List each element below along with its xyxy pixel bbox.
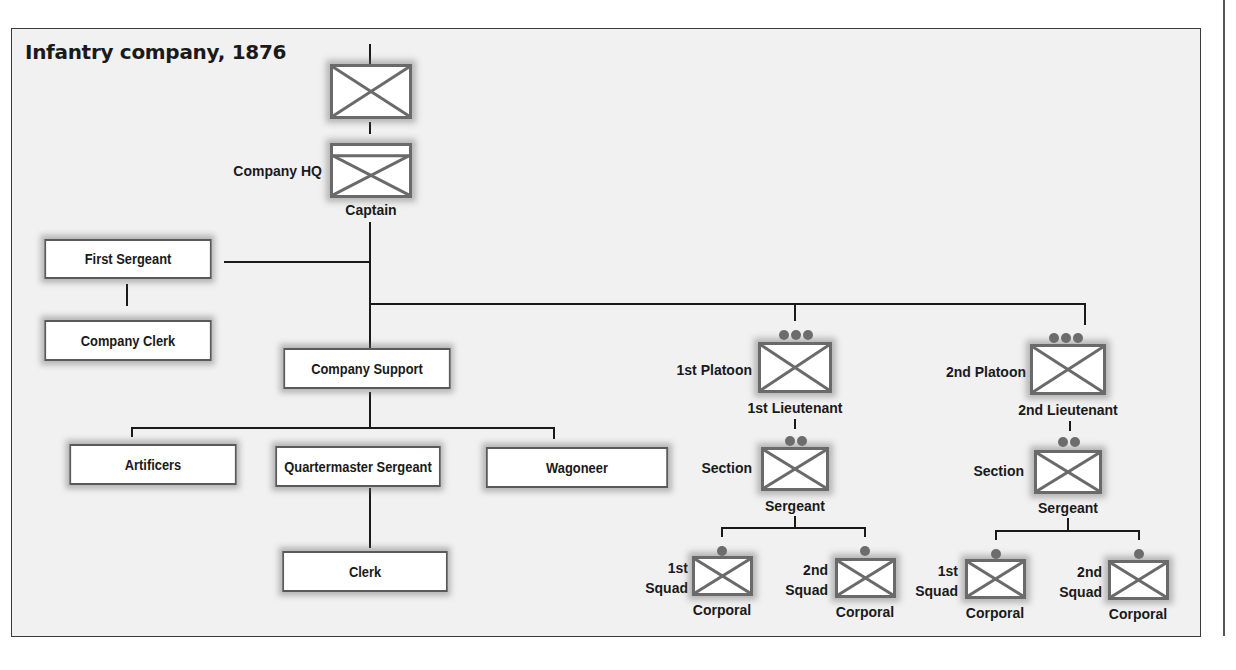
rank-dots-squad: [717, 546, 727, 556]
connector: [369, 44, 371, 64]
infantry-hq-cross-icon: [333, 146, 409, 195]
rank-dots-squad: [991, 549, 1001, 559]
diagram-title: Infantry company, 1876: [25, 40, 286, 64]
company-symbol: [330, 64, 412, 119]
rank-dots-squad: [860, 546, 870, 556]
connector: [131, 427, 555, 429]
p2-squad2-label-line1: 2nd: [1054, 564, 1102, 580]
size-dot-icon: [779, 330, 789, 340]
rank-dots-squad: [1134, 549, 1144, 559]
size-dot-icon: [797, 436, 807, 446]
page-margin-rule: [1223, 0, 1225, 636]
platoon1-rank: 1st Lieutenant: [735, 400, 855, 416]
connector: [553, 427, 555, 439]
connector: [369, 392, 371, 428]
section2-rank: Sergeant: [1028, 500, 1108, 516]
size-dot-icon: [791, 330, 801, 340]
connector: [794, 303, 796, 321]
connector: [369, 488, 371, 548]
p1-squad1-rank: Corporal: [682, 602, 762, 618]
p2-squad2-symbol: [1108, 560, 1169, 600]
infantry-cross-icon: [838, 561, 893, 595]
connector: [1084, 303, 1086, 325]
size-dot-icon: [803, 330, 813, 340]
connector: [126, 284, 128, 306]
p1-squad2-label-line2: Squad: [780, 582, 828, 598]
company-support-box: Company Support: [283, 348, 450, 389]
p2-squad1-label-line1: 1st: [910, 563, 958, 579]
connector: [369, 122, 371, 134]
infantry-cross-icon: [1033, 347, 1103, 392]
section1-label: Section: [690, 460, 752, 476]
first-sergeant-box: First Sergeant: [44, 239, 211, 279]
platoon2-label: 2nd Platoon: [938, 364, 1026, 380]
p2-squad2-rank: Corporal: [1098, 606, 1178, 622]
infantry-cross-icon: [764, 450, 826, 488]
connector: [369, 303, 1086, 305]
infantry-cross-icon: [968, 562, 1023, 596]
p2-squad2-label-line2: Squad: [1054, 584, 1102, 600]
p1-squad2-label-line1: 2nd: [780, 562, 828, 578]
rank-dots-platoon: [779, 330, 813, 340]
company-hq-rank: Captain: [330, 202, 412, 218]
clerk-box: Clerk: [282, 551, 448, 592]
artificers-box: Artificers: [69, 444, 236, 485]
infantry-cross-icon: [333, 67, 409, 116]
rank-dots-platoon: [1049, 333, 1083, 343]
connector: [995, 530, 1140, 532]
wagoneer-box: Wagoneer: [486, 447, 668, 488]
size-dot-icon: [717, 546, 727, 556]
platoon1-symbol: [758, 342, 832, 393]
p2-squad1-rank: Corporal: [955, 605, 1035, 621]
platoon2-symbol: [1030, 344, 1106, 395]
size-dot-icon: [991, 549, 1001, 559]
p1-squad1-symbol: [692, 556, 753, 596]
size-dot-icon: [1073, 333, 1083, 343]
size-dot-icon: [1058, 437, 1068, 447]
connector: [131, 427, 133, 437]
connector: [1069, 421, 1071, 431]
connector: [794, 419, 796, 429]
section2-symbol: [1034, 450, 1102, 494]
section1-symbol: [761, 447, 829, 491]
p2-squad1-symbol: [965, 559, 1026, 599]
connector: [1067, 518, 1069, 530]
p2-squad1-label-line2: Squad: [910, 583, 958, 599]
infantry-cross-icon: [695, 559, 750, 593]
p1-squad1-label-line1: 1st: [640, 560, 688, 576]
size-dot-icon: [1049, 333, 1059, 343]
section2-label: Section: [962, 463, 1024, 479]
p1-squad1-label-line2: Squad: [640, 580, 688, 596]
p1-squad2-rank: Corporal: [825, 604, 905, 620]
connector: [995, 530, 997, 540]
connector: [721, 527, 723, 537]
rank-dots-section: [785, 436, 807, 446]
p1-squad2-symbol: [835, 558, 896, 598]
platoon1-label: 1st Platoon: [668, 362, 752, 378]
infantry-cross-icon: [761, 345, 829, 390]
size-dot-icon: [1070, 437, 1080, 447]
company-hq-symbol: [330, 143, 412, 198]
infantry-cross-icon: [1111, 563, 1166, 597]
quartermaster-sergeant-box: Quartermaster Sergeant: [275, 446, 441, 487]
rank-dots-section: [1058, 437, 1080, 447]
connector: [224, 261, 370, 263]
company-clerk-box: Company Clerk: [44, 320, 211, 361]
connector: [864, 527, 866, 537]
infantry-cross-icon: [1037, 453, 1099, 491]
size-dot-icon: [1134, 549, 1144, 559]
connector: [721, 527, 866, 529]
connector: [369, 222, 371, 350]
size-dot-icon: [860, 546, 870, 556]
size-dot-icon: [785, 436, 795, 446]
connector: [1138, 530, 1140, 540]
company-hq-label: Company HQ: [226, 163, 322, 179]
platoon2-rank: 2nd Lieutenant: [1008, 402, 1128, 418]
size-dot-icon: [1061, 333, 1071, 343]
section1-rank: Sergeant: [755, 498, 835, 514]
